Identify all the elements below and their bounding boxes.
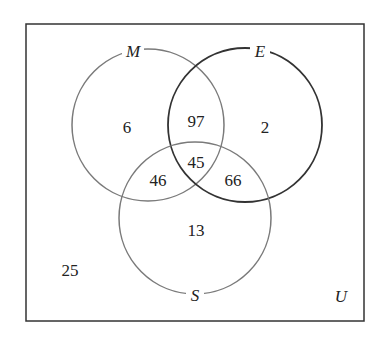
region-outside: 25 [62,261,79,280]
region-e-s: 66 [225,171,242,190]
region-m-s: 46 [150,171,167,190]
region-m-only: 6 [123,118,132,137]
region-m-e-s: 45 [188,153,205,172]
region-s-only: 13 [188,221,205,240]
region-m-e: 97 [188,112,206,131]
set-s-label: S [191,286,200,305]
universe-label: U [335,287,349,306]
venn-diagram: M E S U 6 2 97 45 46 66 13 25 [0,0,383,338]
region-e-only: 2 [261,118,270,137]
set-e-label: E [254,42,266,61]
set-m-label: M [125,42,141,61]
